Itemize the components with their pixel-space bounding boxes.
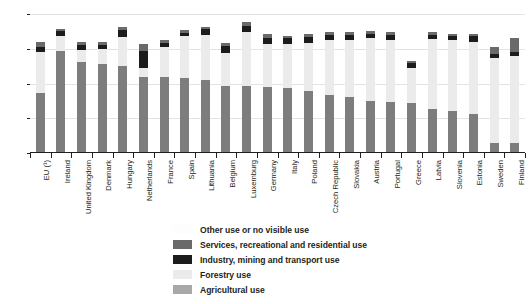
bar-segment (366, 101, 375, 153)
stacked-bar[interactable] (510, 38, 519, 153)
bar-slot (339, 14, 360, 153)
x-axis-tick-mark (339, 153, 340, 158)
bar-segment (56, 36, 65, 51)
stacked-bar[interactable] (345, 32, 354, 153)
plot-area: 0255075100 (30, 14, 525, 153)
bar-slot (298, 14, 319, 153)
stacked-bar[interactable] (490, 47, 499, 153)
stacked-bar[interactable] (469, 34, 478, 153)
x-label-slot: Greece (401, 160, 422, 218)
x-axis-tick-mark (484, 153, 485, 158)
bar-slot (113, 14, 134, 153)
x-axis-tick-mark (443, 153, 444, 158)
x-axis-tick-mark (257, 153, 258, 158)
x-axis-tick-mark (236, 153, 237, 158)
stacked-bar[interactable] (221, 43, 230, 153)
bar-segment (180, 36, 189, 78)
x-label-slot: Latvia (422, 160, 443, 218)
stacked-bar[interactable] (36, 42, 45, 153)
x-label-slot: Austria (360, 160, 381, 218)
x-label-slot: Ireland (51, 160, 72, 218)
stacked-bar[interactable] (428, 32, 437, 153)
bar-segment (469, 114, 478, 153)
stacked-bar[interactable] (56, 29, 65, 153)
bar-segment (283, 88, 292, 153)
x-label-slot: Finland (504, 160, 525, 218)
stacked-bar[interactable] (139, 44, 148, 153)
stacked-bar[interactable] (180, 30, 189, 153)
x-label-slot: Denmark (92, 160, 113, 218)
stacked-bar[interactable] (304, 34, 313, 153)
bar-segment (428, 39, 437, 109)
stacked-bar[interactable] (77, 42, 86, 153)
x-label-slot: United Kingdom (71, 160, 92, 218)
stacked-bar[interactable] (98, 42, 107, 153)
bar-segment (304, 43, 313, 92)
stacked-bar[interactable] (325, 32, 334, 153)
bar-segment (98, 49, 107, 64)
x-axis-tick-mark (525, 153, 526, 158)
x-axis-tick-mark (298, 153, 299, 158)
bar-slot (360, 14, 381, 153)
x-axis-labels: EU (¹)IrelandUnited KingdomDenmarkHungar… (30, 160, 525, 218)
stacked-bar[interactable] (201, 27, 210, 153)
x-axis-tick-mark (278, 153, 279, 158)
stacked-bar[interactable] (160, 40, 169, 153)
stacked-bar[interactable] (366, 31, 375, 153)
chart-legend: Other use or no visible useServices, rec… (173, 222, 493, 297)
x-axis-tick-mark (463, 153, 464, 158)
bar-slot (463, 14, 484, 153)
bar-segment (469, 42, 478, 114)
bar-segment (325, 40, 334, 95)
x-axis-category-label: Finland (518, 160, 526, 185)
bar-slot (133, 14, 154, 153)
bar-slot (51, 14, 72, 153)
bar-segment (221, 46, 230, 53)
x-axis-tick-mark (381, 153, 382, 158)
bar-segment (242, 86, 251, 153)
x-axis-tick-mark (30, 153, 31, 158)
bar-segment (510, 56, 519, 143)
bar-segment (428, 109, 437, 153)
bar-segment (304, 91, 313, 153)
bar-slot (381, 14, 402, 153)
bar-segment (160, 77, 169, 153)
x-axis-tick-mark (195, 153, 196, 158)
legend-item[interactable]: Agricultural use (173, 282, 493, 297)
bar-segment (118, 66, 127, 153)
bar-segment (242, 32, 251, 86)
bar-segment (201, 80, 210, 153)
stacked-bar[interactable] (242, 22, 251, 153)
bar-slot (195, 14, 216, 153)
stacked-bar[interactable] (118, 27, 127, 153)
x-label-slot: Luxemburg (236, 160, 257, 218)
bar-slot (401, 14, 422, 153)
bar-segment (139, 44, 148, 51)
x-axis-tick-mark (422, 153, 423, 158)
bar-slot (154, 14, 175, 153)
x-axis-tick-mark (216, 153, 217, 158)
legend-item[interactable]: Other use or no visible use (173, 222, 493, 237)
legend-label: Agricultural use (200, 285, 265, 295)
stacked-bar[interactable] (407, 61, 416, 153)
stacked-bar[interactable] (263, 34, 272, 153)
bar-segment (448, 40, 457, 111)
bar-segment (221, 86, 230, 153)
bar-segment (180, 78, 189, 153)
stacked-bar[interactable] (386, 32, 395, 153)
legend-label: Services, recreational and residential u… (200, 240, 367, 250)
legend-swatch (173, 225, 192, 234)
x-label-slot: Estonia (463, 160, 484, 218)
bar-segment (325, 95, 334, 153)
legend-label: Other use or no visible use (200, 225, 309, 235)
legend-label: Industry, mining and transport use (200, 255, 339, 265)
legend-item[interactable]: Industry, mining and transport use (173, 252, 493, 267)
bar-segment (98, 64, 107, 153)
stacked-bar[interactable] (448, 34, 457, 153)
legend-item[interactable]: Forestry use (173, 267, 493, 282)
bar-segment (263, 87, 272, 153)
stacked-bar[interactable] (283, 36, 292, 153)
legend-swatch (173, 240, 192, 249)
x-label-slot: Spain (174, 160, 195, 218)
legend-item[interactable]: Services, recreational and residential u… (173, 237, 493, 252)
